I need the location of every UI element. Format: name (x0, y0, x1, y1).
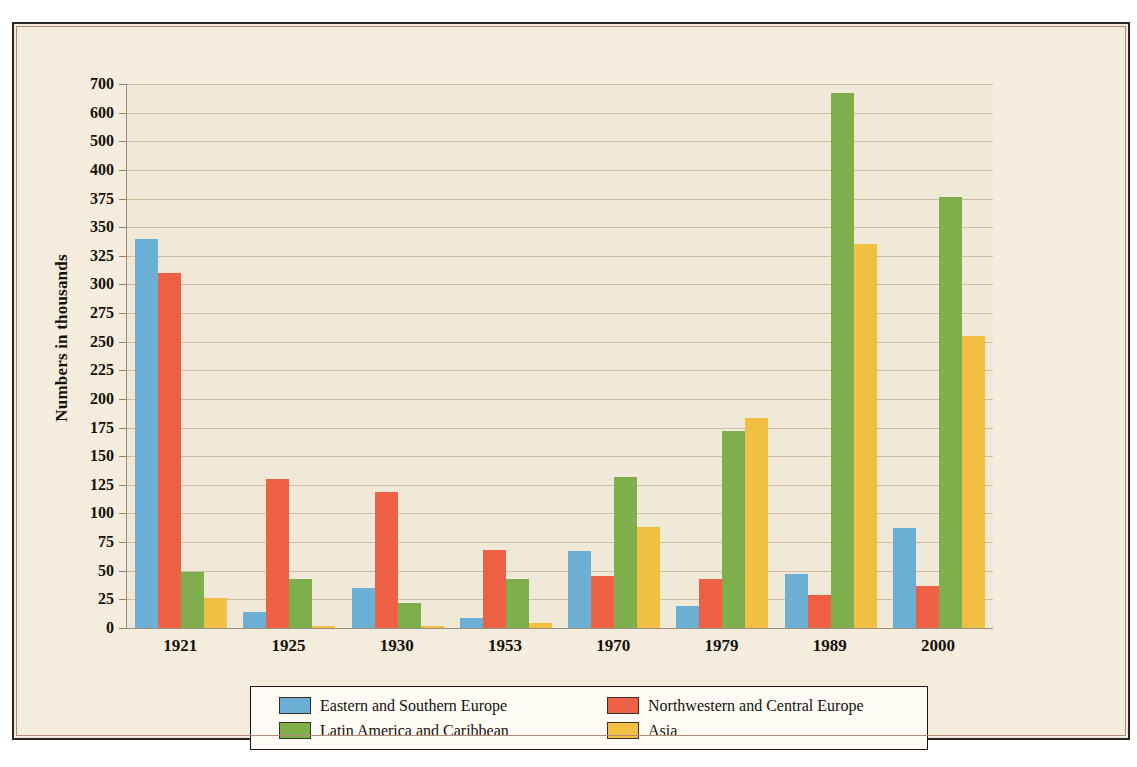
bar-1921-s3[interactable] (204, 598, 227, 628)
y-tick-mark (119, 399, 126, 400)
legend-item-asia[interactable]: Asia (589, 722, 917, 740)
y-tick-mark (119, 284, 126, 285)
bar-1979-s2[interactable] (722, 431, 745, 628)
y-tick-label: 300 (50, 275, 114, 293)
bar-1930-s1[interactable] (375, 492, 398, 628)
y-tick-label: 0 (50, 619, 114, 637)
x-tick-label: 1930 (337, 636, 457, 656)
y-tick-mark (119, 370, 126, 371)
y-tick-label: 125 (50, 476, 114, 494)
y-tick-label: 25 (50, 590, 114, 608)
bar-1925-s0[interactable] (243, 612, 266, 628)
bar-1970-s2[interactable] (614, 477, 637, 628)
y-tick-label: 700 (50, 75, 114, 93)
bar-1970-s3[interactable] (637, 527, 660, 628)
legend-label: Eastern and Southern Europe (320, 697, 507, 715)
legend-item-latin-america-caribbean[interactable]: Latin America and Caribbean (261, 722, 589, 740)
legend-label: Latin America and Caribbean (320, 722, 509, 740)
bar-1930-s2[interactable] (398, 603, 421, 628)
legend-item-northwestern-central-europe[interactable]: Northwestern and Central Europe (589, 697, 917, 715)
bar-group (235, 84, 343, 628)
bar-group (777, 84, 885, 628)
y-tick-mark (119, 571, 126, 572)
bar-1953-s1[interactable] (483, 550, 506, 628)
y-tick-mark (119, 428, 126, 429)
bar-1989-s0[interactable] (785, 574, 808, 628)
legend-swatch-latin-america-caribbean (279, 722, 311, 739)
y-tick-label: 150 (50, 447, 114, 465)
y-tick-label: 600 (50, 104, 114, 122)
y-tick-label: 375 (50, 190, 114, 208)
bar-1930-s3[interactable] (421, 626, 444, 628)
bar-1989-s2[interactable] (831, 93, 854, 628)
y-tick-mark (119, 227, 126, 228)
bar-1953-s3[interactable] (529, 623, 552, 628)
y-tick-label: 400 (50, 161, 114, 179)
y-tick-mark (119, 313, 126, 314)
x-tick-label: 1953 (445, 636, 565, 656)
y-tick-label: 100 (50, 504, 114, 522)
bar-2000-s1[interactable] (916, 586, 939, 628)
bar-2000-s0[interactable] (893, 528, 916, 628)
x-tick-label: 1921 (120, 636, 240, 656)
bar-2000-s3[interactable] (962, 336, 985, 628)
bar-1921-s0[interactable] (135, 239, 158, 628)
bar-group (885, 84, 993, 628)
bar-1925-s2[interactable] (289, 579, 312, 628)
x-tick-label: 1979 (661, 636, 781, 656)
legend-item-eastern-southern-europe[interactable]: Eastern and Southern Europe (261, 697, 589, 715)
bar-1925-s3[interactable] (312, 626, 335, 628)
bar-1925-s1[interactable] (266, 479, 289, 628)
y-tick-mark (119, 84, 126, 85)
chart-paper: Numbers in thousands 1921192519301953197… (18, 28, 1124, 734)
bar-1979-s0[interactable] (676, 606, 699, 628)
x-tick-label: 1925 (228, 636, 348, 656)
bar-1970-s0[interactable] (568, 551, 591, 628)
y-tick-label: 500 (50, 132, 114, 150)
y-tick-mark (119, 256, 126, 257)
bar-group (452, 84, 560, 628)
y-tick-mark (119, 542, 126, 543)
bar-1953-s2[interactable] (506, 579, 529, 628)
bar-1989-s1[interactable] (808, 595, 831, 628)
y-tick-mark (119, 599, 126, 600)
legend-swatch-asia (607, 722, 639, 739)
bar-2000-s2[interactable] (939, 197, 962, 628)
y-tick-label: 250 (50, 333, 114, 351)
bar-1970-s1[interactable] (591, 576, 614, 628)
y-tick-mark (119, 170, 126, 171)
chart-page: Numbers in thousands 1921192519301953197… (0, 0, 1137, 767)
y-tick-mark (119, 628, 126, 629)
y-tick-label: 325 (50, 247, 114, 265)
x-tick-label: 2000 (878, 636, 998, 656)
y-tick-mark (119, 485, 126, 486)
bar-1921-s1[interactable] (158, 273, 181, 628)
y-tick-mark (119, 342, 126, 343)
y-tick-mark (119, 113, 126, 114)
y-tick-mark (119, 199, 126, 200)
y-tick-label: 50 (50, 562, 114, 580)
bar-1953-s0[interactable] (460, 618, 483, 628)
bar-1979-s1[interactable] (699, 579, 722, 628)
x-tick-label: 1970 (553, 636, 673, 656)
x-tick-label: 1989 (770, 636, 890, 656)
y-tick-label: 225 (50, 361, 114, 379)
chart-legend: Eastern and Southern EuropeNorthwestern … (250, 686, 928, 750)
bar-group (560, 84, 668, 628)
plot-area (126, 84, 993, 629)
legend-label: Asia (648, 722, 677, 740)
y-tick-label: 350 (50, 218, 114, 236)
y-tick-label: 200 (50, 390, 114, 408)
y-tick-label: 175 (50, 419, 114, 437)
y-tick-label: 75 (50, 533, 114, 551)
bar-1930-s0[interactable] (352, 588, 375, 628)
y-tick-mark (119, 141, 126, 142)
bar-group (668, 84, 776, 628)
bar-group (127, 84, 235, 628)
legend-swatch-eastern-southern-europe (279, 697, 311, 714)
bar-1989-s3[interactable] (854, 244, 877, 628)
bar-1979-s3[interactable] (745, 418, 768, 628)
legend-label: Northwestern and Central Europe (648, 697, 863, 715)
bar-1921-s2[interactable] (181, 572, 204, 628)
bar-group (344, 84, 452, 628)
